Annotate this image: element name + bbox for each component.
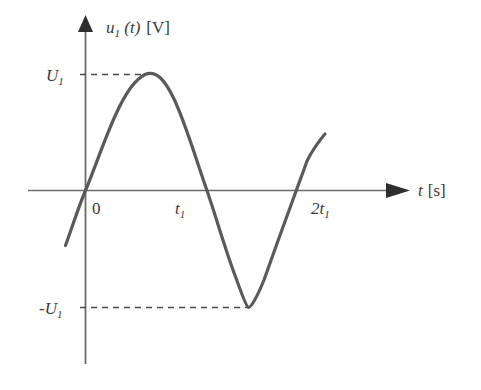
x-tick-2t1-subscript: 1 <box>324 208 330 220</box>
y-axis-unit: [V] <box>146 18 170 37</box>
y-axis-label-symbol: u <box>106 18 115 37</box>
y-axis-label-argument: (t) <box>124 18 140 37</box>
x-axis-label: t[s] <box>418 181 446 200</box>
sine-wave-figure: u1 (t)[V] t[s] U1 -U1 0 t1 2t1 <box>0 0 481 390</box>
x-axis-unit: [s] <box>428 181 446 200</box>
y-tick-positive-subscript: 1 <box>58 75 64 87</box>
x-tick-label-2t1: 2t1 <box>311 199 330 220</box>
y-axis-label: u1 (t)[V] <box>106 18 170 39</box>
x-axis-label-symbol: t <box>418 181 424 200</box>
up-arrow-icon <box>78 15 93 32</box>
right-arrow-icon <box>386 183 410 198</box>
y-tick-label-negative-peak: -U1 <box>39 299 62 320</box>
plot-canvas: u1 (t)[V] t[s] U1 -U1 0 t1 2t1 <box>0 0 481 390</box>
x-tick-label-origin: 0 <box>92 199 101 218</box>
y-tick-negative-subscript: 1 <box>57 308 63 320</box>
y-tick-label-positive-peak: U1 <box>46 66 64 87</box>
x-tick-t1-subscript: 1 <box>180 208 186 220</box>
x-tick-label-t1: t1 <box>175 199 185 220</box>
